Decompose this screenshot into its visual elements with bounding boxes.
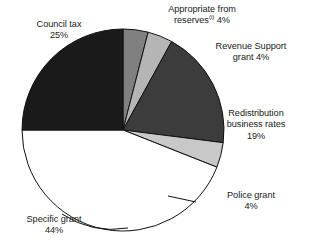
pie-label-revenue-support-grant: Revenue Support grant 4% bbox=[196, 41, 306, 64]
pie-chart-figure: Appropriate from reserves(i) 4% Revenue … bbox=[0, 0, 309, 250]
pie-label-specific-grant: Specific grant 44% bbox=[2, 214, 106, 237]
pie-label-redistribution-business-rates: Redistribution business rates 19% bbox=[205, 108, 307, 142]
slice-council-tax[interactable] bbox=[22, 29, 123, 130]
pie-label-appropriate-from-reserves: Appropriate from reserves(i) 4% bbox=[141, 4, 263, 27]
label-percent: 44% bbox=[2, 225, 106, 236]
label-percent: 19% bbox=[205, 131, 307, 142]
label-line-2: grant 4% bbox=[196, 52, 306, 63]
label-line-1: Revenue Support bbox=[196, 41, 306, 52]
label-line-2: reserves(i) 4% bbox=[141, 15, 263, 26]
label-text: reserves bbox=[174, 15, 209, 25]
footnote-marker: (i) bbox=[209, 13, 214, 20]
label-line-2: business rates bbox=[205, 119, 307, 130]
label-percent: 25% bbox=[6, 30, 112, 41]
label-line-1: Specific grant bbox=[2, 214, 106, 225]
pie-label-police-grant: Police grant 4% bbox=[203, 190, 299, 213]
label-percent: 4% bbox=[203, 201, 299, 212]
pie-slices-ordered bbox=[22, 29, 224, 231]
label-line-1: Police grant bbox=[203, 190, 299, 201]
label-percent: 4% bbox=[217, 15, 230, 25]
label-line-1: Redistribution bbox=[205, 108, 307, 119]
label-line-1: Council tax bbox=[6, 19, 112, 30]
label-line-1: Appropriate from bbox=[141, 4, 263, 15]
pie-label-council-tax: Council tax 25% bbox=[6, 19, 112, 42]
